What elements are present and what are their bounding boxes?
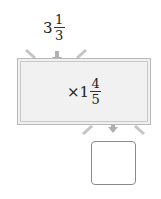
answer-box[interactable] [91, 141, 136, 185]
output-funnel-right [135, 126, 144, 134]
input-numerator: 1 [55, 13, 63, 26]
operation-denominator: 5 [91, 93, 99, 106]
input-funnel-left [26, 50, 35, 58]
operation-numerator: 4 [91, 77, 99, 90]
input-funnel-right [77, 50, 86, 58]
operation-whole: 1 [80, 83, 90, 101]
operator-symbol: × [67, 83, 80, 101]
input-whole: 3 [43, 19, 53, 37]
operation-fraction: 4 5 [90, 77, 101, 106]
input-fraction: 1 3 [54, 13, 65, 42]
operation-label: × 1 4 5 [67, 77, 101, 106]
input-number: 3 1 3 [43, 13, 65, 42]
output-funnel-left [83, 126, 92, 134]
input-denominator: 3 [55, 29, 63, 42]
